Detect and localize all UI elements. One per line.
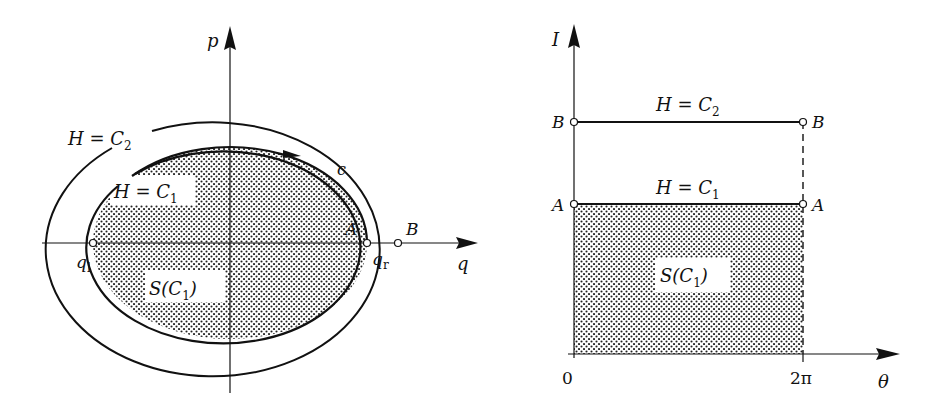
label-q-left: ql	[76, 252, 91, 275]
label-a-left: A	[550, 195, 564, 215]
theta-axis-label: θ	[878, 371, 889, 392]
tick-label-2pi: 2π	[790, 368, 812, 388]
label-a: A	[343, 219, 357, 239]
i-axis-label: I	[551, 29, 560, 50]
label-q-right: qr	[372, 249, 389, 272]
label-b-left: B	[551, 112, 565, 132]
i-axis-arrow-icon	[568, 24, 580, 48]
point-a-right	[800, 201, 807, 208]
point-b-left	[571, 119, 578, 126]
p-axis-label: p	[207, 30, 219, 51]
label-h-c1-right: H = C1	[655, 177, 720, 202]
right-panel-action-angle: I θ 0 2π H = C2 H = C1 B B A A S(C1)	[550, 24, 900, 392]
point-a-left	[571, 201, 578, 208]
q-axis-arrow-icon	[456, 237, 478, 249]
label-h-c2: H = C2	[67, 128, 132, 153]
label-b: B	[405, 219, 419, 239]
q-axis-label: q	[457, 253, 469, 274]
point-q-left	[90, 240, 97, 247]
phase-space-diagram: p q H = C2 H = C1 c S(C1) ql A qr B I	[0, 0, 935, 412]
label-b-right: B	[811, 112, 825, 132]
point-b	[395, 240, 402, 247]
tick-label-0: 0	[562, 368, 573, 388]
orbit-direction-arrow-icon	[283, 150, 301, 158]
point-a	[364, 240, 371, 247]
label-h-c2-right: H = C2	[655, 94, 720, 119]
theta-axis-arrow-icon	[876, 348, 900, 360]
point-b-right	[800, 119, 807, 126]
left-panel-phase-plane: p q H = C2 H = C1 c S(C1) ql A qr B	[42, 26, 478, 393]
label-a-right: A	[810, 195, 824, 215]
p-axis-arrow-icon	[224, 26, 236, 50]
orbit-label-c: c	[337, 160, 346, 179]
